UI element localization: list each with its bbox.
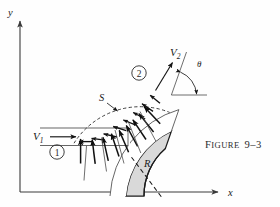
theta-arc [181, 72, 197, 94]
y-axis-label: y [7, 7, 13, 18]
figure-9-3-diagram: y x R [0, 0, 280, 207]
station-1-marker: 1 [50, 145, 64, 159]
x-axis-label: x [227, 187, 233, 198]
theta-label: θ [197, 59, 202, 69]
outlet-velocity-group: V2 [156, 46, 181, 91]
figure-caption-text: FIGURE9–3 [205, 139, 262, 150]
shear-force-arrow [150, 95, 160, 103]
surface-s-leader [107, 103, 118, 111]
figure-caption: FIGURE9–3 [205, 139, 262, 150]
radius-label: R [143, 158, 151, 169]
v2-label: V2 [170, 46, 181, 61]
caption-number: 9–3 [245, 139, 262, 150]
station-2-label: 2 [137, 69, 142, 79]
station-2-marker: 2 [132, 66, 146, 80]
surface-s-group: S [99, 92, 118, 111]
v2-arrow [156, 63, 173, 91]
caption-word: IGURE [211, 140, 239, 150]
station-1-label: 1 [55, 148, 60, 158]
surface-s-label: S [99, 92, 105, 103]
normal-force-arrow [144, 107, 160, 124]
band-left-face [72, 146, 110, 181]
